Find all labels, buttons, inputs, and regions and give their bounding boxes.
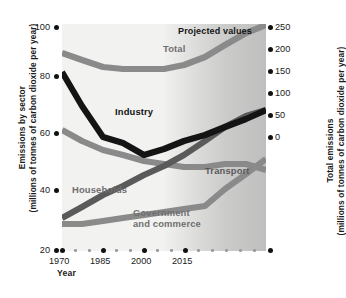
x-tick-dot-minor-2005 [156, 249, 159, 252]
x-tick-dot-minor-2030 [225, 249, 228, 252]
y-tick-dot-left-80 [54, 74, 59, 79]
series-label-government-line1: Government [133, 207, 190, 218]
y-tick-dot-right-150 [268, 69, 273, 74]
series-label-total: Total [163, 44, 185, 55]
series-label-transport: Transport [205, 166, 250, 177]
y-tick-label-right-250: 250 [275, 22, 290, 32]
y-axis-title-right: Total emissions (millions of tonnes of c… [325, 66, 346, 236]
x-tick-dot-minor-1975 [74, 249, 77, 252]
x-tick-dot-minor-1980 [88, 249, 91, 252]
y-tick-dot-left-100 [54, 25, 59, 30]
x-tick-dot-minor-2020 [197, 249, 200, 252]
x-tick-label-2000: 2000 [131, 256, 151, 266]
x-tick-dot-1970 [60, 248, 65, 253]
x-axis-title: Year [57, 268, 76, 278]
y-tick-label-left-80: 80 [26, 71, 50, 81]
y-tick-label-right-50: 50 [275, 110, 285, 120]
x-tick-label-1970: 1970 [49, 256, 69, 266]
series-label-households: Households [72, 185, 127, 196]
y-tick-label-left-20: 20 [26, 245, 50, 255]
x-tick-dot-minor-2025 [211, 249, 214, 252]
y-axis-title-right-line2: (millions of tonnes of carbon dioxide pe… [335, 66, 346, 236]
x-tick-dot-minor-1990 [115, 249, 118, 252]
y-tick-dot-right-200 [268, 47, 273, 52]
y-tick-label-left-100: 100 [26, 22, 50, 32]
x-tick-label-1985: 1985 [90, 256, 110, 266]
y-tick-dot-left-60 [54, 131, 59, 136]
x-tick-dot-2000 [142, 248, 147, 253]
y-tick-label-right-0: 0 [275, 132, 280, 142]
projected-values-label: Projected values [178, 26, 252, 37]
y-tick-label-left-60: 60 [26, 128, 50, 138]
series-label-government-line2: and commerce [133, 218, 201, 229]
x-tick-dot-minor-2010 [170, 249, 173, 252]
y-tick-dot-right-0 [268, 135, 273, 140]
x-tick-dot-minor-2035 [239, 249, 242, 252]
y-tick-label-right-150: 150 [275, 66, 290, 76]
y-tick-dot-left-20 [54, 248, 59, 253]
y-tick-dot-right-50 [268, 113, 273, 118]
x-tick-dot-2015 [183, 248, 188, 253]
x-tick-dot-minor-1995 [129, 249, 132, 252]
y-tick-label-right-200: 200 [275, 44, 290, 54]
x-tick-dot-minor-2040 [253, 249, 256, 252]
y-tick-dot-right-100 [268, 91, 273, 96]
y-tick-label-right-100: 100 [275, 88, 290, 98]
x-tick-dot-1985 [101, 248, 106, 253]
x-tick-label-2015: 2015 [172, 256, 192, 266]
y-axis-corner-dot-right [268, 248, 273, 253]
series-label-industry: Industry [115, 107, 153, 118]
y-tick-label-left-40: 40 [26, 185, 50, 195]
y-tick-dot-right-250 [268, 25, 273, 30]
y-tick-dot-left-40 [54, 188, 59, 193]
y-axis-title-right-line1: Total emissions [325, 66, 336, 236]
series-label-government-and-commerce: Government and commerce [133, 208, 201, 229]
